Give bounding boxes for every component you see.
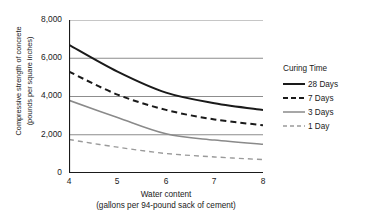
x-tick-label-4: 4 (60, 177, 78, 186)
legend-swatch-1-day (283, 121, 305, 131)
y-tick-label-6000: 6,000 (26, 53, 62, 62)
legend: Curing Time 28 Days7 Days3 Days1 Day (283, 64, 338, 133)
legend-swatch-7-days (283, 93, 305, 103)
series-line-7-days (69, 72, 263, 126)
legend-item-7-days[interactable]: 7 Days (283, 91, 338, 105)
legend-label: 1 Day (308, 122, 329, 131)
y-tick-label-0: 0 (26, 168, 62, 177)
x-tick-label-6: 6 (157, 177, 175, 186)
series-line-28-days (69, 45, 263, 110)
plot-svg (69, 20, 263, 173)
legend-label: 28 Days (308, 80, 338, 89)
legend-item-28-days[interactable]: 28 Days (283, 77, 338, 91)
y-tick-label-8000: 8,000 (26, 15, 62, 24)
y-axis-label-line2: (pounds per square inches) (25, 0, 36, 171)
y-axis-label: Compressive strength of concrete (pounds… (14, 0, 44, 171)
legend-items: 28 Days7 Days3 Days1 Day (283, 77, 338, 133)
legend-swatch-3-days (283, 107, 305, 117)
legend-item-3-days[interactable]: 3 Days (283, 105, 338, 119)
x-axis-label-line1: Water content (60, 189, 272, 200)
legend-swatch-28-days (283, 79, 305, 89)
chart-figure: Compressive strength of concrete (pounds… (0, 0, 370, 216)
legend-item-1-day[interactable]: 1 Day (283, 119, 338, 133)
x-tick-label-8: 8 (254, 177, 272, 186)
legend-title: Curing Time (283, 64, 338, 73)
x-tick-label-5: 5 (108, 177, 126, 186)
y-axis-label-line1: Compressive strength of concrete (14, 0, 25, 171)
x-axis-label-line2: (gallons per 94-pound sack of cement) (60, 200, 272, 211)
x-tick-label-7: 7 (205, 177, 223, 186)
plot-area (69, 20, 263, 173)
legend-label: 3 Days (308, 108, 333, 117)
y-tick-label-2000: 2,000 (26, 130, 62, 139)
data-series-layer (69, 45, 263, 160)
legend-label: 7 Days (308, 94, 333, 103)
grid-lines (69, 20, 263, 135)
y-tick-label-4000: 4,000 (26, 91, 62, 100)
x-axis-label: Water content (gallons per 94-pound sack… (60, 189, 272, 211)
